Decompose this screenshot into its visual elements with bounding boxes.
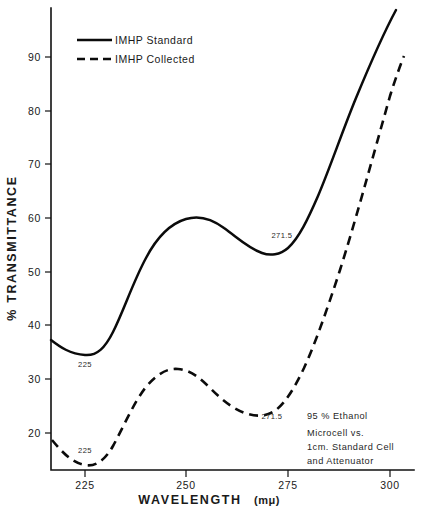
y-tick-label-90: 90 — [28, 51, 41, 63]
x-tick-label-250: 250 — [176, 479, 196, 491]
y-tick-label-40: 40 — [28, 319, 41, 331]
x-tick-label-275: 275 — [278, 479, 298, 491]
y-tick-label-80: 80 — [28, 105, 41, 117]
y-tick-label-70: 70 — [28, 158, 41, 170]
axis-frame — [51, 8, 414, 470]
legend-label-collected: IMHP Collected — [115, 53, 195, 65]
point-label-standard-225: 225 — [78, 360, 92, 369]
x-axis-title-unit: (mμ) — [254, 494, 280, 506]
y-tick-label-50: 50 — [28, 266, 41, 278]
x-axis-ticks — [85, 470, 390, 477]
y-axis-title: % TRANSMITTANCE — [5, 175, 19, 320]
note-line-4: and Attenuator — [307, 456, 374, 466]
series-imhp-collected — [52, 56, 404, 465]
y-axis-ticks — [45, 57, 51, 433]
note-line-3: 1cm. Standard Cell — [307, 442, 394, 452]
y-tick-label-60: 60 — [28, 212, 41, 224]
conditions-note: 95 % Ethanol Microcell vs. 1cm. Standard… — [307, 411, 394, 466]
point-label-collected-271: 271.5 — [261, 412, 282, 421]
chart-legend: IMHP Standard IMHP Collected — [77, 34, 195, 65]
x-tick-label-300: 300 — [380, 479, 400, 491]
point-label-collected-225: 225 — [78, 446, 92, 455]
series-imhp-standard — [51, 10, 396, 355]
y-tick-label-30: 30 — [28, 373, 41, 385]
x-axis-title: WAVELENGTH — [138, 493, 241, 506]
note-line-1: 95 % Ethanol — [307, 411, 368, 421]
x-tick-label-225: 225 — [75, 479, 95, 491]
y-tick-label-20: 20 — [28, 427, 41, 439]
point-label-standard-271: 271.5 — [271, 231, 292, 240]
spectrum-figure: 90 80 70 60 50 40 30 20 % TRANSMITTANCE … — [0, 0, 422, 506]
legend-label-standard: IMHP Standard — [115, 34, 193, 46]
note-line-2: Microcell vs. — [307, 428, 364, 438]
transmittance-chart: 90 80 70 60 50 40 30 20 % TRANSMITTANCE … — [0, 0, 422, 506]
